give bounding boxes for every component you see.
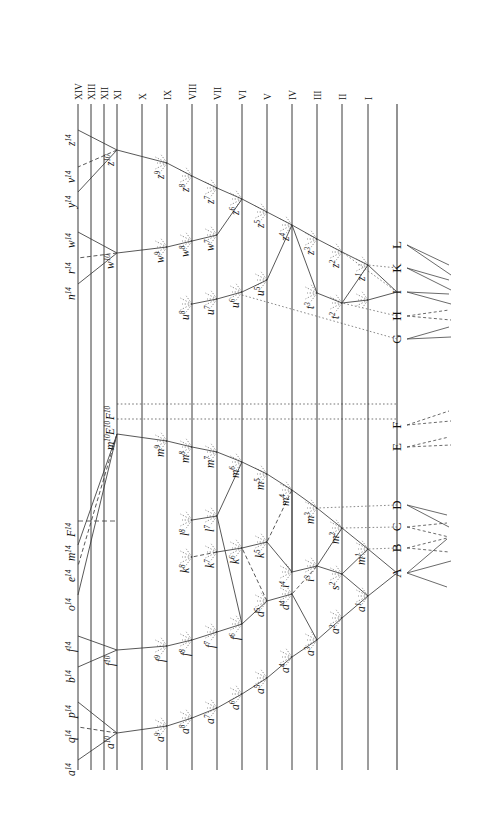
node-base: s2 [329,582,341,590]
node-label-z14: z14 [65,134,77,147]
node-label-d4: d4 [279,600,291,610]
node-label-f9: f9 [154,655,167,662]
divergence-ray-k7-1 [205,546,217,552]
generation-label-XI: XI [113,90,123,100]
node-label-z5: z5 [254,220,266,229]
branch-t1-to-t2 [342,300,368,303]
branch-m10-to-o14 [78,434,117,595]
node-base: m10 [104,434,116,450]
divergence-ray-t1-1 [356,294,368,300]
divergence-ray-z5-3 [255,212,267,218]
node-label-i4: i4 [279,581,291,588]
node-label-m2: m2 [329,532,341,544]
node-base: E10 [104,420,116,436]
node-label-w7: w7 [204,239,216,251]
branch-f6-to-l7 [217,516,242,624]
divergence-ray-w9-1 [155,241,167,247]
divergence-ray-z3-3 [305,239,317,245]
branch-u6-to-u7 [217,292,242,299]
node-base: k6 [229,555,241,564]
divergence-ray-u8-1 [180,298,192,304]
fan-line-A-2 [407,573,447,587]
node-label-z6: z6 [229,207,241,216]
node-label-p14: p14 [65,705,78,719]
node-base: d4 [279,600,291,610]
node-label-u7: u7 [204,305,216,315]
divergence-ray-w7-1 [205,229,217,235]
node-label-w14: w14 [65,233,77,248]
fan-line-H-0 [407,310,449,316]
generation-label-XIII: XIII [87,84,97,100]
node-base: f9 [154,655,167,662]
node-base: F14 [65,522,77,538]
divergence-ray-z8-3 [180,176,192,182]
branch-m4-to-m5 [267,474,292,490]
node-label-m1: m1 [355,553,367,565]
divergence-ray-m8-1 [180,441,192,447]
node-label-a8: a8 [179,724,191,734]
divergence-ray-z7-3 [205,188,217,194]
node-base: e14 [65,569,77,582]
species-label-E: E [389,443,404,451]
node-label-E10: E10 [104,420,116,436]
branch-m1-to-m2 [342,528,368,549]
node-base: z7 [204,196,216,205]
node-label-s2: s2 [329,582,341,590]
node-base: m2 [329,532,341,544]
node-base: u7 [204,305,216,315]
node-base: z8 [179,184,191,193]
node-label-a9: a9 [154,732,166,742]
node-label-a6: a6 [229,700,241,710]
divergence-ray-k5-3 [255,542,267,548]
node-base: f7 [204,641,217,648]
node-base: k5 [254,549,266,558]
node-base: k7 [204,559,216,568]
node-base: m8 [179,451,191,463]
node-label-m9: m9 [154,445,166,457]
node-label-u6: u6 [229,298,241,308]
node-base: m4 [279,494,291,506]
node-base: a10 [104,736,116,749]
node-base: w10 [104,254,116,269]
node-label-z4: z4 [279,233,291,242]
generation-label-I: I [364,97,374,100]
node-base: z5 [254,220,266,229]
divergence-ray-l8-3 [180,520,192,526]
node-label-F10: F10 [104,405,116,421]
node-label-f7: f7 [204,641,217,648]
node-label-f6: f6 [229,633,242,640]
node-base: t3 [304,302,316,309]
generation-label-X: X [138,93,148,100]
divergence-ray-i3-1 [305,560,317,566]
divergence-ray-w8-1 [180,235,192,241]
branch-t3-to-z4 [292,225,317,293]
generation-label-VI: VI [238,90,248,100]
node-base: a2 [329,624,341,634]
node-base: u8 [179,310,191,320]
branch-a10-to-p14 [78,702,117,733]
divergence-ray-f8-1 [180,634,192,640]
node-label-k6: k6 [229,555,241,564]
fan-line-E-0 [407,437,449,447]
divergence-ray-k8-3 [180,557,192,563]
node-base: l8 [179,529,191,536]
generation-label-II: II [338,94,348,100]
branch-f6-to-f7 [217,624,242,632]
node-base: i3 [304,575,316,582]
node-label-r14: r14 [65,262,77,274]
node-label-f14: f14 [65,641,78,652]
node-base: u5 [254,286,266,296]
generation-label-III: III [313,91,323,101]
diagram-canvas: XIVXIIIXIIXIXIXVIIIVIIVIVIVIIIIIIABCDEFG… [0,0,498,828]
node-base: f14 [65,641,78,652]
node-base: l7 [204,525,216,532]
node-base: w7 [204,239,216,251]
node-base: m9 [154,445,166,457]
node-label-y14: y14 [65,195,78,209]
fan-line-D-1 [407,505,449,527]
fan-line-H-1 [407,316,451,320]
fan-line-B-1 [407,548,449,552]
node-label-w8: w8 [179,245,191,257]
node-base: z10 [104,154,116,167]
node-label-m3: m3 [304,512,316,524]
